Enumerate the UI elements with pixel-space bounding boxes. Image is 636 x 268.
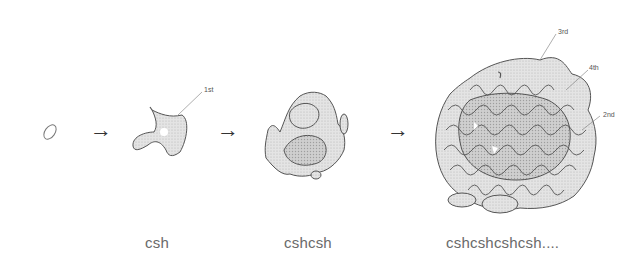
callout-4th: 4th [589, 64, 599, 71]
stage1-label: csh [145, 234, 169, 251]
arrow-icon: → [90, 119, 112, 141]
seed-loop-shape [41, 123, 58, 142]
stage3-folded-shape [436, 34, 600, 213]
stage2-label: cshcsh [284, 234, 332, 251]
callout-2nd: 2nd [603, 111, 615, 118]
stage1-folded-shape [133, 92, 202, 156]
arrow-icon: → [217, 119, 239, 141]
callout-3rd: 3rd [558, 28, 568, 35]
callout-1st: 1st [204, 86, 213, 93]
arrow-icon: → [387, 119, 409, 141]
stage3-label: cshcshcshcsh.... [446, 234, 559, 251]
stage2-folded-shape [265, 92, 348, 179]
